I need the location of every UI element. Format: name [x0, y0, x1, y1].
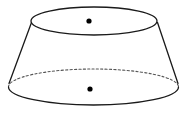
top-face-center-dot — [86, 18, 91, 23]
bottom-face-center-dot — [87, 86, 92, 91]
top-circle — [31, 7, 157, 35]
frustum-diagram: Conical frustum (truncated cone) geometr… — [0, 0, 186, 115]
figure-container: Conical frustum (truncated cone) geometr… — [0, 0, 186, 115]
